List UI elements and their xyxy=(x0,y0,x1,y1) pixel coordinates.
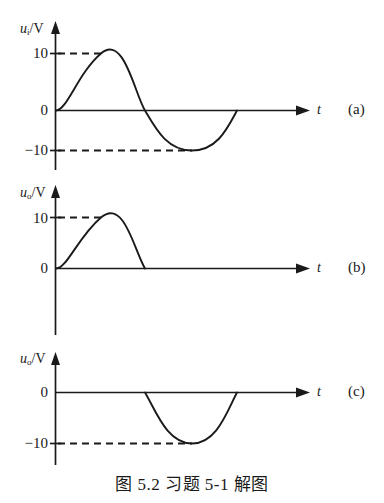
figure-caption: 图 5.2 习题 5-1 解图 xyxy=(0,476,384,493)
panel-a-x-arrow-icon xyxy=(296,106,310,116)
panel-a-tag: (a) xyxy=(348,102,365,117)
panel-c-waveform xyxy=(145,393,237,444)
panel-b: uo/V 10 0 t (b) xyxy=(0,170,384,335)
panel-c-tag: (c) xyxy=(348,384,365,399)
panel-c: uo/V 0 −10 t (c) xyxy=(0,335,384,465)
panel-b-y-arrow-icon xyxy=(51,185,60,198)
panel-c-x-arrow-icon xyxy=(296,388,310,398)
panel-b-x-arrow-icon xyxy=(296,264,310,274)
panel-b-tag: (b) xyxy=(348,260,366,275)
panel-b-plot xyxy=(0,170,384,335)
panel-b-x-axis-label: t xyxy=(317,261,321,275)
panel-a-plot xyxy=(0,0,384,170)
panel-c-plot xyxy=(0,335,384,465)
panel-b-waveform xyxy=(56,213,145,268)
panel-c-y-arrow-icon xyxy=(51,352,60,365)
panel-a-waveform xyxy=(56,50,237,151)
panel-a: ui/V 10 0 −10 t (a) xyxy=(0,0,384,170)
panel-a-y-arrow-icon xyxy=(51,21,60,34)
panel-c-x-axis-label: t xyxy=(317,385,321,399)
panel-a-x-axis-label: t xyxy=(317,103,321,117)
figure-container: ui/V 10 0 −10 t (a) uo/V 10 xyxy=(0,0,384,503)
